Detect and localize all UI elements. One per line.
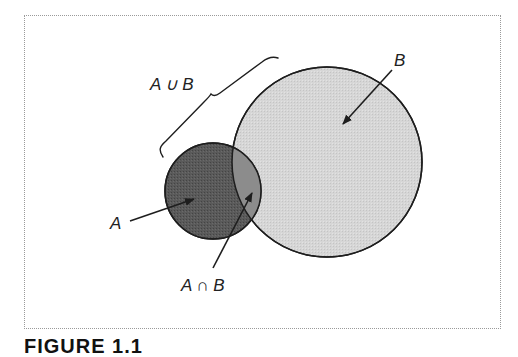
figure-caption: FIGURE 1.1 [24,336,143,356]
intersection-label: A ∩ B [180,276,225,295]
set-b-circle [232,67,422,257]
union-label: A ∪ B [149,75,194,94]
set-b-label: B [394,51,405,70]
set-a-label: A [109,214,121,233]
